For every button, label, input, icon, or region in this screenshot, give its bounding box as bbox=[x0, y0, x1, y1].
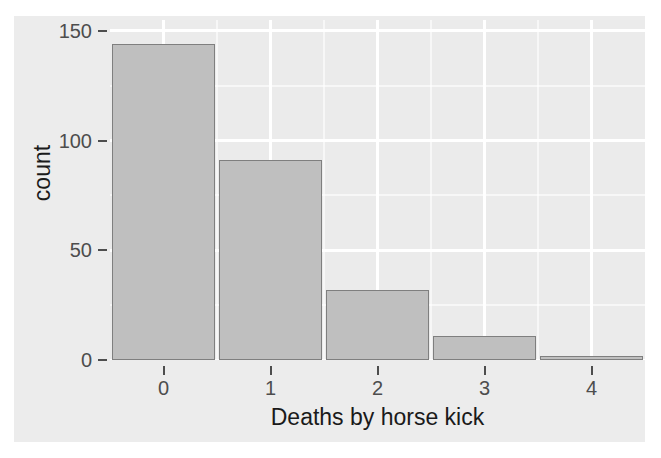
x-tick-label-4: 4 bbox=[552, 378, 632, 398]
gridline-major-vertical bbox=[483, 20, 486, 360]
y-tick-mark-0 bbox=[98, 359, 107, 361]
bar-1 bbox=[219, 160, 321, 360]
x-tick-mark-0 bbox=[163, 366, 165, 375]
y-tick-label-150: 150 bbox=[30, 21, 92, 41]
y-tick-mark-100 bbox=[98, 140, 107, 142]
chart-figure: 150100500 01234 Deaths by horse kick cou… bbox=[0, 0, 661, 458]
x-tick-label-1: 1 bbox=[231, 378, 311, 398]
gridline-major-vertical bbox=[590, 20, 593, 360]
x-tick-mark-2 bbox=[377, 366, 379, 375]
x-tick-mark-4 bbox=[591, 366, 593, 375]
y-tick-mark-50 bbox=[98, 249, 107, 251]
chart-panel bbox=[110, 20, 645, 360]
bar-2 bbox=[326, 290, 428, 360]
x-tick-label-3: 3 bbox=[445, 378, 525, 398]
x-tick-mark-3 bbox=[484, 366, 486, 375]
gridline-minor-vertical bbox=[323, 20, 325, 360]
bar-3 bbox=[433, 336, 535, 360]
y-axis-title: count bbox=[29, 143, 55, 203]
x-axis-title: Deaths by horse kick bbox=[110, 404, 645, 430]
gridline-minor-vertical bbox=[537, 20, 539, 360]
x-tick-label-2: 2 bbox=[338, 378, 418, 398]
gridline-minor-vertical bbox=[430, 20, 432, 360]
x-tick-label-0: 0 bbox=[124, 378, 204, 398]
gridline-minor-vertical bbox=[216, 20, 218, 360]
bar-4 bbox=[540, 356, 642, 360]
y-tick-mark-150 bbox=[98, 30, 107, 32]
y-tick-label-0: 0 bbox=[30, 350, 92, 370]
y-tick-label-50: 50 bbox=[30, 240, 92, 260]
x-tick-mark-1 bbox=[270, 366, 272, 375]
bar-0 bbox=[112, 44, 214, 360]
